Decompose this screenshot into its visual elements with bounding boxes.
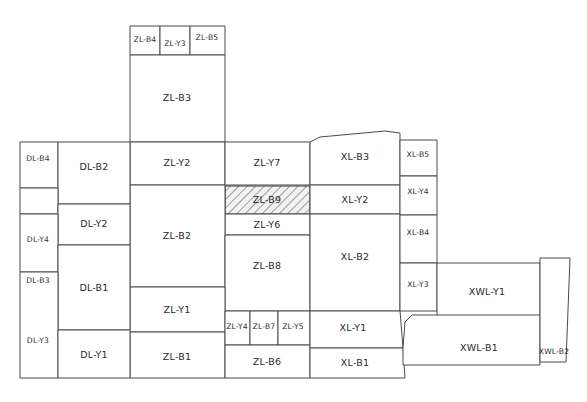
zone-label-zl-b1: ZL-B1: [163, 351, 191, 362]
zone-label-zl-y4: ZL-Y4: [226, 322, 248, 331]
zone-label-zl-b6: ZL-B6: [253, 356, 281, 367]
zone-cell-xl-b4[interactable]: [400, 215, 437, 263]
zone-label-xl-y4: XL-Y4: [407, 187, 429, 196]
zone-label-dl-y4: DL-Y4: [27, 235, 49, 244]
zone-cell-dl-y3[interactable]: [20, 272, 58, 378]
zone-label-xwl-b2: XWL-B2: [539, 347, 570, 356]
zone-label-zl-y5: ZL-Y5: [282, 322, 304, 331]
zone-label-zl-y1: ZL-Y1: [164, 304, 191, 315]
zone-label-xl-b5: XL-B5: [407, 150, 430, 159]
zone-label-dl-y1: DL-Y1: [80, 349, 108, 360]
zone-label-xl-y1: XL-Y1: [340, 322, 367, 333]
zone-label-dl-b1: DL-B1: [79, 282, 108, 293]
zone-cell-dl-b2[interactable]: [58, 142, 130, 204]
zone-label-xl-b1: XL-B1: [341, 357, 369, 368]
diagram-root: ZL-B4ZL-Y3ZL-B5ZL-B3ZL-Y2ZL-Y7ZL-B9ZL-Y6…: [0, 0, 587, 402]
zone-cell-xl-b2[interactable]: [310, 214, 400, 311]
zone-label-zl-b3: ZL-B3: [163, 92, 191, 103]
zone-label-zl-b7: ZL-B7: [253, 322, 276, 331]
zone-label-zl-b9: ZL-B9: [253, 194, 281, 205]
zone-label-xl-b3: XL-B3: [341, 151, 369, 162]
zone-label-dl-y2: DL-Y2: [80, 218, 108, 229]
zone-label-zl-b2: ZL-B2: [163, 230, 191, 241]
zone-label-zl-b5: ZL-B5: [196, 33, 219, 42]
zone-label-xl-b2: XL-B2: [341, 251, 369, 262]
zone-label-zl-y7: ZL-Y7: [254, 157, 281, 168]
zone-label-dl-b4: DL-B4: [26, 154, 49, 163]
zone-label-zl-b4: ZL-B4: [134, 35, 157, 44]
zone-label-xl-y2: XL-Y2: [342, 194, 369, 205]
zone-label-xwl-y1: XWL-Y1: [469, 286, 505, 297]
zone-label-dl-y3: DL-Y3: [27, 336, 49, 345]
zone-cell-zl-b8[interactable]: [225, 235, 310, 311]
zone-label-zl-y3: ZL-Y3: [164, 39, 186, 48]
zone-label-zl-y2: ZL-Y2: [164, 157, 191, 168]
zone-label-xl-y3: XL-Y3: [407, 280, 429, 289]
zone-cell-xwl-b1[interactable]: [403, 315, 540, 365]
zone-cell-dl-b4[interactable]: [20, 142, 58, 188]
zone-label-xl-b4: XL-B4: [407, 228, 430, 237]
zone-label-zl-y6: ZL-Y6: [254, 219, 281, 230]
zone-cell-dl-y4[interactable]: [20, 188, 58, 214]
zone-layout-diagram: ZL-B4ZL-Y3ZL-B5ZL-B3ZL-Y2ZL-Y7ZL-B9ZL-Y6…: [0, 0, 587, 402]
zone-label-xwl-b1: XWL-B1: [460, 342, 498, 353]
zone-label-zl-b8: ZL-B8: [253, 260, 281, 271]
zone-label-dl-b3: DL-B3: [26, 276, 49, 285]
zone-label-dl-b2: DL-B2: [79, 161, 108, 172]
